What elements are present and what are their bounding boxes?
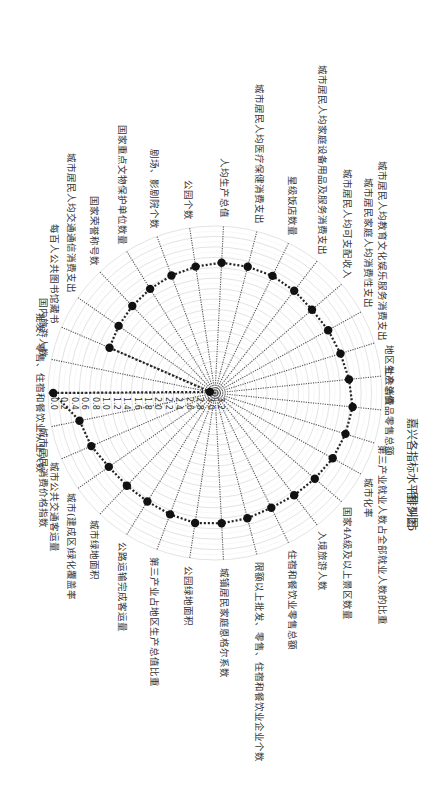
radial-tick: 0.6: [80, 397, 89, 410]
axis-label: 城市(建成区)绿化覆盖率: [66, 493, 77, 600]
radial-tick: 1.4: [122, 397, 131, 410]
axis-label: 公园个数: [183, 180, 194, 220]
axis-label: 限额以上批发、零售、住宿和餐饮业企业个数: [254, 562, 265, 762]
radial-tick: 3.2: [216, 397, 225, 410]
axis-label: 人均生产总值: [219, 158, 230, 218]
axis-label: 城市居民人均医疗保健消费支出: [254, 84, 265, 224]
axis-label: 公路运输完成客运量: [117, 542, 128, 632]
data-series-jiaxing: [49, 259, 357, 528]
axis-label: 城市公共交通客运量: [49, 462, 60, 552]
data-point: [329, 454, 337, 462]
radial-tick: 2.6: [185, 397, 194, 410]
axis-label: 城镇居民家庭恩格尔系数: [219, 568, 230, 678]
data-point: [191, 262, 199, 270]
axis-label: 星级饭店数量: [287, 176, 298, 236]
radial-tick: 2.8: [195, 397, 204, 410]
axis-label: 剧场、影剧院个数: [149, 149, 160, 229]
axis-label: 入境旅游人数: [317, 531, 328, 591]
axis-label: 住宿和餐饮业零售总额: [287, 550, 298, 650]
axis-label: 城市居民人均交通通信消费支出: [66, 153, 77, 293]
data-point: [268, 272, 276, 280]
data-point: [217, 519, 225, 527]
series-line: [53, 263, 352, 524]
axis-label: 城市绿地面积: [89, 520, 100, 580]
radar-chart: 0.00.20.40.60.81.01.21.41.61.82.02.22.42…: [0, 0, 433, 789]
data-point: [191, 519, 199, 527]
axis-label: 城市居民人均教育文化娱乐服务消费支出: [377, 161, 388, 341]
radial-tick: 2.0: [153, 397, 162, 410]
axis-label: 城市居民人均可支配收入: [342, 169, 353, 279]
axis-label: 城市居民家庭人均消费性支出: [363, 178, 374, 308]
data-point: [345, 375, 353, 383]
data-point: [49, 389, 57, 397]
caption-title: 嘉兴各指标水平排列图: [405, 418, 419, 528]
axis-label: 国家重点文物保护单位数量: [117, 125, 128, 245]
axis-label: 城市居民人均家庭设备用品及服务消费支出: [317, 65, 328, 255]
radial-tick: 1.0: [101, 397, 110, 410]
data-point: [146, 285, 154, 293]
data-point: [290, 491, 298, 499]
data-point: [308, 306, 316, 314]
data-point: [75, 417, 83, 425]
data-point: [114, 322, 122, 330]
axis-label: 每百人公共图书馆藏书: [49, 224, 60, 324]
data-point: [341, 430, 349, 438]
axis-label: 第三产业就业人数占全部就业人数的比重: [377, 445, 388, 625]
radial-tick: 2.2: [164, 397, 173, 410]
data-point: [87, 442, 95, 450]
data-point: [166, 510, 174, 518]
data-point: [105, 463, 113, 471]
axis-label: 国家荣誉称号数: [89, 196, 100, 266]
data-point: [311, 475, 319, 483]
axis-label: 城市化率: [363, 478, 374, 518]
radial-tick: 2.4: [174, 397, 183, 410]
axis-label: 国内旅游人数: [38, 298, 49, 358]
data-point: [244, 263, 252, 271]
radial-tick: 0.0: [49, 397, 58, 410]
axis-label: 社会消费品零售总额: [384, 366, 395, 456]
axis-label: 国家4A级及以上景区数量: [342, 507, 353, 620]
radial-tick: 0.4: [70, 397, 79, 410]
figure-caption: 图 5-25 嘉兴各指标水平排列图: [405, 418, 419, 531]
radial-tick: 0.8: [91, 397, 100, 410]
data-point: [243, 514, 251, 522]
data-point: [324, 326, 332, 334]
data-point: [217, 259, 225, 267]
data-point: [348, 403, 356, 411]
radial-tick: 1.2: [112, 397, 121, 410]
radial-tick-labels: 0.00.20.40.60.81.01.21.41.61.82.02.22.42…: [49, 397, 225, 410]
data-point: [336, 349, 344, 357]
radial-tick: 3.0: [206, 397, 215, 410]
data-point: [206, 388, 214, 396]
data-point: [105, 344, 113, 352]
axis-label: 城市居民消费价格指数: [38, 428, 49, 528]
data-point: [128, 302, 136, 310]
data-point: [123, 482, 131, 490]
axis-label: 第三产业占地区生产总值比重: [149, 557, 160, 687]
axis-label: 公园绿地面积: [183, 566, 194, 626]
data-point: [267, 504, 275, 512]
radial-tick: 1.6: [133, 397, 142, 410]
data-point: [290, 287, 298, 295]
radial-tick: 1.8: [143, 397, 152, 410]
data-point: [143, 497, 151, 505]
data-point: [167, 271, 175, 279]
